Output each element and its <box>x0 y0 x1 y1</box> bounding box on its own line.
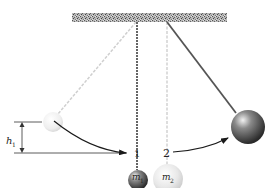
height-arrow-bottom <box>20 148 25 153</box>
pendulum-diagram: 1 2 h 1 m 1 m 2 <box>0 0 277 188</box>
height-arrow-top <box>20 122 25 127</box>
ceiling-support <box>72 13 227 22</box>
height-label-subscript: 1 <box>12 141 16 148</box>
string-ball2-swung <box>167 22 236 113</box>
swing-arrow-ball2 <box>173 138 228 152</box>
ball1-number: 1 <box>134 148 140 159</box>
ball2-number: 2 <box>163 147 170 160</box>
mass1-label-subscript: 1 <box>140 177 144 184</box>
mass2-label-subscript: 2 <box>170 177 174 184</box>
ghost-ball1-initial <box>43 112 63 132</box>
ball2-swung <box>231 110 265 144</box>
ghost-string-left <box>58 22 136 114</box>
swing-arrow-ball1 <box>54 121 126 153</box>
